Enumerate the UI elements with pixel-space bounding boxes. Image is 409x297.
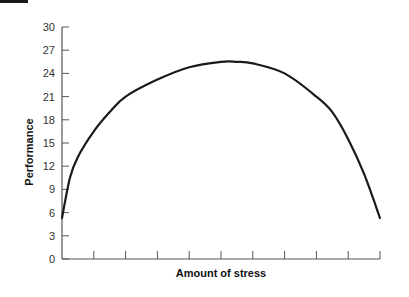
y-axis-label: Performance (23, 118, 35, 185)
y-tick-label: 15 (43, 137, 55, 149)
x-axis (62, 251, 380, 259)
y-tick-label: 30 (43, 21, 55, 33)
y-axis: 036912151821242730 (43, 21, 69, 265)
y-tick-label: 18 (43, 114, 55, 126)
x-axis-label: Amount of stress (176, 267, 266, 279)
y-tick-label: 9 (49, 183, 55, 195)
y-tick-label: 0 (49, 253, 55, 265)
y-tick-label: 24 (43, 67, 55, 79)
performance-curve (62, 61, 380, 218)
y-tick-label: 12 (43, 160, 55, 172)
y-tick-label: 21 (43, 91, 55, 103)
performance-stress-chart: 036912151821242730 Performance Amount of… (0, 0, 409, 297)
y-tick-label: 6 (49, 207, 55, 219)
y-tick-label: 3 (49, 230, 55, 242)
y-tick-label: 27 (43, 44, 55, 56)
